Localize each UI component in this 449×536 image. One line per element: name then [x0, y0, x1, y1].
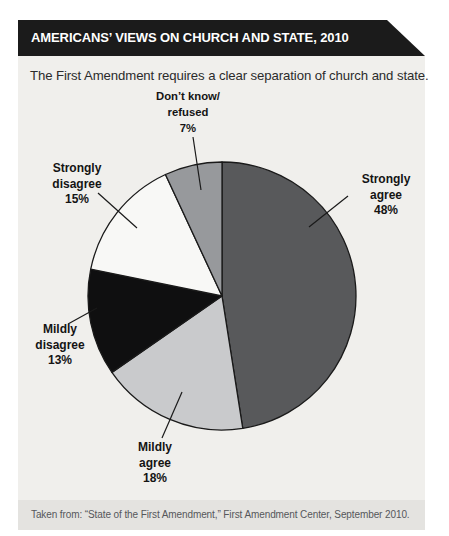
slice-label: Stronglyagree48%	[362, 172, 411, 217]
slice-label-line: refused	[168, 106, 209, 118]
slice-label-line: Mildly	[138, 440, 172, 454]
source-note: Taken from: “State of the First Amendmen…	[18, 500, 425, 530]
slice-label-line: Don’t know/	[156, 90, 221, 102]
pie-slice-strongly-agree	[222, 162, 356, 428]
slice-label: Don’t know/refused7%	[156, 90, 221, 134]
slice-label: Mildlydisagree13%	[35, 322, 85, 367]
chart-title-banner: AMERICANS’ VIEWS ON CHURCH AND STATE, 20…	[18, 20, 425, 56]
slice-label-line: 13%	[48, 353, 72, 367]
chart-subtitle: The First Amendment requires a clear sep…	[18, 56, 425, 83]
source-bar: Taken from: “State of the First Amendmen…	[18, 500, 425, 530]
chart-panel: The First Amendment requires a clear sep…	[18, 56, 425, 500]
slice-label-line: agree	[370, 188, 402, 202]
slice-label-line: disagree	[52, 177, 102, 191]
slice-label-line: disagree	[35, 338, 85, 352]
slice-label-line: Strongly	[362, 172, 411, 186]
pie-chart-svg: Stronglyagree48%Mildlyagree18%Mildlydisa…	[18, 86, 425, 500]
slice-label-line: Strongly	[53, 161, 102, 175]
chart-title: AMERICANS’ VIEWS ON CHURCH AND STATE, 20…	[18, 20, 425, 56]
slice-label-line: 7%	[180, 122, 196, 134]
slice-label-line: Mildly	[43, 322, 77, 336]
slice-label-line: 48%	[374, 203, 398, 217]
slice-label-line: 15%	[65, 192, 89, 206]
slice-label-line: 18%	[143, 471, 167, 485]
slice-label: Stronglydisagree15%	[52, 161, 102, 206]
slice-label: Mildlyagree18%	[138, 440, 172, 485]
slice-label-line: agree	[139, 456, 171, 470]
